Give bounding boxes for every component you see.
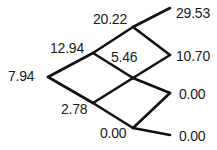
tree-edge-d-ud xyxy=(93,78,133,103)
node-value-d: 2.78 xyxy=(61,102,87,116)
node-value-dd: 0.00 xyxy=(100,126,126,140)
terminal-value-1: 10.70 xyxy=(176,49,210,63)
tree-edge-uu-t0 xyxy=(133,8,170,27)
binomial-tree-diagram: 7.94 12.94 2.78 20.22 5.46 0.00 29.53 10… xyxy=(0,0,217,150)
tree-edge-ud-t2 xyxy=(133,78,170,93)
tree-edge-dd-t3 xyxy=(133,128,170,135)
node-value-ud: 5.46 xyxy=(111,50,137,64)
node-value-u: 12.94 xyxy=(50,41,84,55)
tree-edge-uu-t1 xyxy=(133,27,170,55)
tree-edge-root-d xyxy=(48,77,93,103)
node-value-root: 7.94 xyxy=(8,69,34,83)
tree-edge-root-u xyxy=(48,53,93,77)
tree-edge-dd-t2 xyxy=(133,93,170,128)
terminal-value-2: 0.00 xyxy=(179,87,205,101)
terminal-value-3: 0.00 xyxy=(179,129,205,143)
terminal-value-0: 29.53 xyxy=(176,6,210,20)
tree-edge-ud-t1 xyxy=(133,55,170,78)
node-value-uu: 20.22 xyxy=(93,12,127,26)
